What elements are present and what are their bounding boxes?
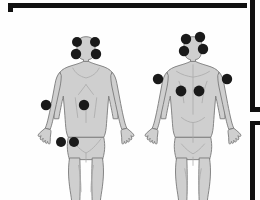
body-figures xyxy=(0,0,260,200)
diagram-canvas: Fibromyalgia Tender Point Locations xyxy=(0,0,260,200)
tender-point-gluteal-right[interactable] xyxy=(194,86,205,97)
tender-point-trochanter-right[interactable] xyxy=(79,100,89,110)
tender-point-knee-left[interactable] xyxy=(56,137,66,147)
tender-point-second-rib-right[interactable] xyxy=(91,49,101,59)
tender-point-low-cervical-right[interactable] xyxy=(90,37,100,47)
tender-point-trochanter-left[interactable] xyxy=(41,100,51,110)
tender-point-low-cervical-left[interactable] xyxy=(72,37,82,47)
posterior-body-silhouette xyxy=(145,37,241,200)
tender-point-trapezius-right[interactable] xyxy=(198,44,208,54)
tender-point-occiput-right[interactable] xyxy=(195,32,205,42)
tender-point-occiput-left[interactable] xyxy=(181,34,191,44)
tender-point-lateral-epicondyle-right[interactable] xyxy=(222,74,232,84)
tender-point-second-rib-left[interactable] xyxy=(71,49,81,59)
anterior-figure xyxy=(38,37,134,200)
posterior-figure xyxy=(145,37,241,200)
tender-point-lateral-epicondyle-left[interactable] xyxy=(153,74,163,84)
tender-point-knee-right[interactable] xyxy=(69,137,79,147)
tender-point-trapezius-left[interactable] xyxy=(179,46,189,56)
tender-point-gluteal-left[interactable] xyxy=(176,86,187,97)
